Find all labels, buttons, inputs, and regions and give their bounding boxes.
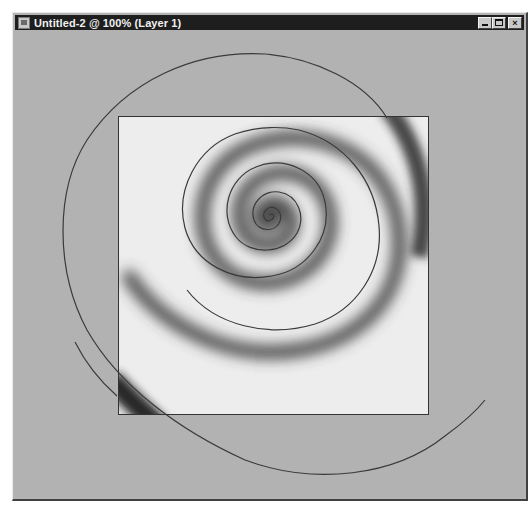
spiral-path[interactable]	[15, 30, 524, 497]
minimize-button[interactable]	[478, 17, 492, 29]
canvas-workspace[interactable]	[15, 30, 524, 497]
title-bar[interactable]: Untitled-2 @ 100% (Layer 1) ×	[15, 15, 524, 30]
close-icon: ×	[512, 18, 517, 28]
maximize-button[interactable]	[492, 17, 506, 29]
close-button[interactable]: ×	[508, 17, 522, 29]
document-icon[interactable]	[18, 17, 30, 29]
minimize-icon	[482, 24, 488, 26]
document-window[interactable]: Untitled-2 @ 100% (Layer 1) ×	[12, 12, 528, 501]
window-title: Untitled-2 @ 100% (Layer 1)	[34, 17, 181, 29]
window-controls: ×	[478, 17, 522, 29]
maximize-icon	[495, 19, 503, 26]
